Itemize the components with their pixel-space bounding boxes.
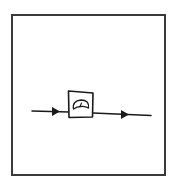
flow-diagram bbox=[0, 0, 175, 188]
output-arrow-icon bbox=[121, 110, 129, 119]
input-line bbox=[32, 111, 69, 112]
input-arrow-icon bbox=[52, 107, 60, 116]
